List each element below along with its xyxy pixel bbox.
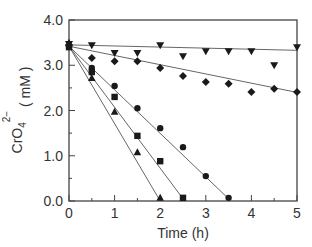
diamond-marker (270, 85, 278, 93)
square-marker (134, 133, 140, 139)
y-tick-label: 2.0 (44, 103, 64, 119)
y-axis-title: CrO42− ( mM ) (1, 67, 33, 154)
diamond-marker (179, 72, 187, 80)
square-marker (111, 94, 117, 100)
y-tick-label: 3.0 (44, 57, 64, 73)
circle-marker (134, 105, 140, 111)
plot-axes: 0123450.01.02.03.04.0 (44, 12, 302, 221)
diamond-marker (88, 54, 96, 62)
inverted-triangle-marker (133, 50, 141, 57)
inverted-triangle-marker (247, 48, 255, 55)
diamond-marker (225, 80, 233, 88)
diamond-marker (133, 57, 141, 65)
circle-marker (111, 83, 117, 89)
inverted-triangle-marker (270, 62, 278, 69)
x-tick-label: 2 (156, 205, 164, 221)
diamond-marker (247, 88, 255, 96)
data-markers (65, 39, 301, 201)
diamond-marker (202, 78, 210, 86)
diamond-marker (111, 57, 119, 65)
inverted-triangle-marker (179, 53, 187, 60)
circle-marker (157, 125, 163, 131)
fit-lines (69, 45, 297, 201)
x-tick-label: 1 (111, 205, 119, 221)
x-axis-title: Time (h) (157, 225, 209, 241)
fit-line-square (69, 46, 183, 198)
x-tick-label: 5 (293, 205, 301, 221)
circle-marker (180, 144, 186, 150)
circle-marker (225, 195, 231, 201)
x-tick-label: 4 (248, 205, 256, 221)
y-tick-label: 1.0 (44, 148, 64, 164)
fit-line-triangle-up (69, 46, 160, 201)
inverted-triangle-marker (202, 48, 210, 55)
square-marker (180, 195, 186, 201)
diamond-marker (293, 88, 301, 96)
y-tick-label: 4.0 (44, 12, 64, 28)
y-tick-label: 0.0 (44, 193, 64, 209)
square-marker (157, 158, 163, 164)
triangle-up-marker (134, 148, 142, 155)
inverted-triangle-marker (156, 42, 164, 49)
circle-marker (203, 173, 209, 179)
inverted-triangle-marker (225, 48, 233, 55)
axis-labels: Time (h) CrO42− ( mM ) (1, 67, 209, 241)
x-tick-label: 0 (65, 205, 73, 221)
x-tick-label: 3 (202, 205, 210, 221)
chart: 0123450.01.02.03.04.0 Time (h) CrO42− ( … (0, 0, 312, 247)
plot-frame (69, 20, 297, 201)
fit-line-diamond (69, 46, 297, 92)
fit-line-inverted-triangle (69, 45, 297, 50)
